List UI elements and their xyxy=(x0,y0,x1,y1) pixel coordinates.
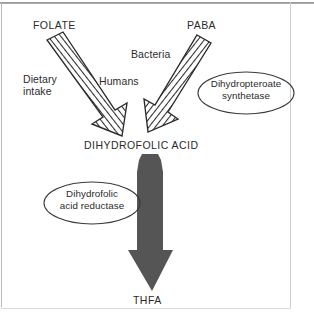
figure-canvas: FOLATE PABA Dietary intake Humans Bacter… xyxy=(0,0,314,319)
node-label-thfa: THFA xyxy=(133,295,162,307)
node-label-folate: FOLATE xyxy=(33,20,76,32)
node-label-paba: PABA xyxy=(187,20,216,32)
enzyme-label-dihydrofolic-acid-reductase: Dihydrofolic acid reductase xyxy=(44,188,140,212)
dihydrofolic-acid-to-thfa-arrow xyxy=(128,154,173,291)
pathway-label-bacteria: Bacteria xyxy=(131,49,170,61)
pathway-label-humans: Humans xyxy=(99,76,139,88)
pathway-label-dietary-intake: Dietary intake xyxy=(23,74,57,98)
enzyme-label-dihydropteroate-synthetase: Dihydropteroate synthetase xyxy=(198,78,294,102)
node-label-dihydrofolic-acid: DIHYDROFOLIC ACID xyxy=(84,140,198,152)
